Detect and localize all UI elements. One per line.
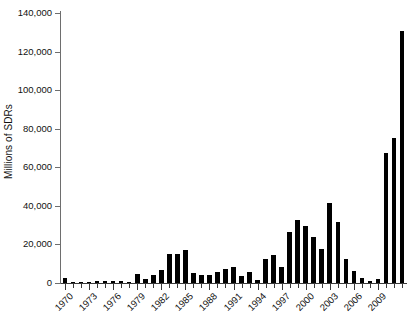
x-axis-tick xyxy=(242,284,243,288)
plot-area xyxy=(61,13,406,283)
x-axis-tick-label: 1997 xyxy=(270,291,292,313)
x-axis-tick xyxy=(330,284,331,290)
x-axis-tick xyxy=(362,284,363,288)
y-axis-title: Millions of SDRs xyxy=(0,0,16,283)
x-axis-tick xyxy=(97,284,98,288)
bar xyxy=(143,279,148,283)
x-axis-tick xyxy=(234,284,235,290)
x-axis-tick xyxy=(346,284,347,288)
bar xyxy=(79,282,84,283)
x-axis-tick xyxy=(113,284,114,290)
x-axis-tick xyxy=(73,284,74,288)
x-axis-tick xyxy=(169,284,170,288)
x-axis-tick xyxy=(298,284,299,288)
x-axis-tick xyxy=(65,284,66,290)
bar xyxy=(207,275,212,283)
bar xyxy=(368,281,373,283)
bar xyxy=(319,249,324,283)
bar xyxy=(159,270,164,283)
bar xyxy=(199,275,204,283)
x-axis-tick xyxy=(89,284,90,290)
bar xyxy=(103,281,108,283)
x-axis-tick xyxy=(402,284,403,288)
x-axis-tick xyxy=(145,284,146,288)
y-axis-tick-label: 0 xyxy=(47,278,52,288)
y-axis-tick-label: 60,000 xyxy=(23,163,52,173)
x-axis-tick-label: 1985 xyxy=(173,291,195,313)
bar xyxy=(344,259,349,283)
x-axis-tick-label: 1994 xyxy=(246,291,268,313)
x-axis-tick-label: 2000 xyxy=(294,291,316,313)
bar xyxy=(239,276,244,283)
x-axis-tick xyxy=(290,284,291,288)
x-axis-tick-label: 1988 xyxy=(197,291,219,313)
x-axis-tick xyxy=(217,284,218,288)
bar xyxy=(376,279,381,283)
bar xyxy=(231,267,236,283)
bar xyxy=(352,271,357,283)
x-axis-tick-label: 1976 xyxy=(101,291,123,313)
bar xyxy=(191,273,196,283)
x-axis-tick xyxy=(105,284,106,288)
bar xyxy=(111,281,116,283)
bar xyxy=(151,275,156,283)
bar xyxy=(360,278,365,283)
y-axis-tick-label: 20,000 xyxy=(23,240,52,250)
x-axis-tick xyxy=(81,284,82,288)
x-axis-tick-label: 2009 xyxy=(366,291,388,313)
x-axis-tick-label: 1973 xyxy=(77,291,99,313)
x-axis-tick xyxy=(185,284,186,290)
y-axis-tick-label: 120,000 xyxy=(18,47,52,57)
x-axis-tick xyxy=(274,284,275,288)
y-axis-tick xyxy=(55,283,61,284)
x-axis-tick xyxy=(338,284,339,288)
x-axis-tick xyxy=(282,284,283,290)
bar xyxy=(223,269,228,283)
bar xyxy=(127,282,132,283)
bar xyxy=(87,282,92,283)
x-axis-tick xyxy=(177,284,178,288)
bar xyxy=(63,278,68,283)
x-axis-tick xyxy=(129,284,130,288)
bar xyxy=(255,280,260,283)
x-axis-tick xyxy=(209,284,210,290)
bar xyxy=(183,250,188,283)
bar xyxy=(167,254,172,283)
bar xyxy=(311,237,316,283)
bar xyxy=(263,259,268,283)
x-axis-tick xyxy=(225,284,226,288)
bar xyxy=(303,226,308,283)
x-axis-tick xyxy=(121,284,122,288)
bar xyxy=(384,153,389,283)
bar xyxy=(175,254,180,283)
bar xyxy=(279,267,284,283)
bar xyxy=(271,255,276,283)
bar xyxy=(71,282,76,283)
x-axis-tick-label: 2006 xyxy=(342,291,364,313)
x-axis-tick xyxy=(378,284,379,290)
y-axis-tick-label: 100,000 xyxy=(18,85,52,95)
x-axis-tick-label: 1982 xyxy=(149,291,171,313)
x-axis-tick xyxy=(322,284,323,288)
x-axis-tick xyxy=(193,284,194,288)
x-axis-tick xyxy=(153,284,154,288)
bar-chart: Millions of SDRs 020,00040,00060,00080,0… xyxy=(0,0,411,313)
x-axis-tick-label: 1970 xyxy=(53,291,75,313)
x-axis-tick xyxy=(370,284,371,288)
x-axis-tick xyxy=(161,284,162,290)
bar xyxy=(327,203,332,283)
x-axis-tick xyxy=(258,284,259,290)
x-axis-tick xyxy=(201,284,202,288)
x-axis-tick xyxy=(306,284,307,290)
bar xyxy=(400,31,405,283)
x-axis-tick xyxy=(266,284,267,288)
y-axis-tick-label: 40,000 xyxy=(23,201,52,211)
x-axis-tick-label: 2003 xyxy=(318,291,340,313)
bar xyxy=(135,274,140,283)
x-axis-tick xyxy=(314,284,315,288)
bar xyxy=(247,272,252,283)
bar xyxy=(336,222,341,283)
y-axis-title-text: Millions of SDRs xyxy=(3,104,14,179)
bar xyxy=(392,138,397,283)
x-axis-tick xyxy=(137,284,138,290)
